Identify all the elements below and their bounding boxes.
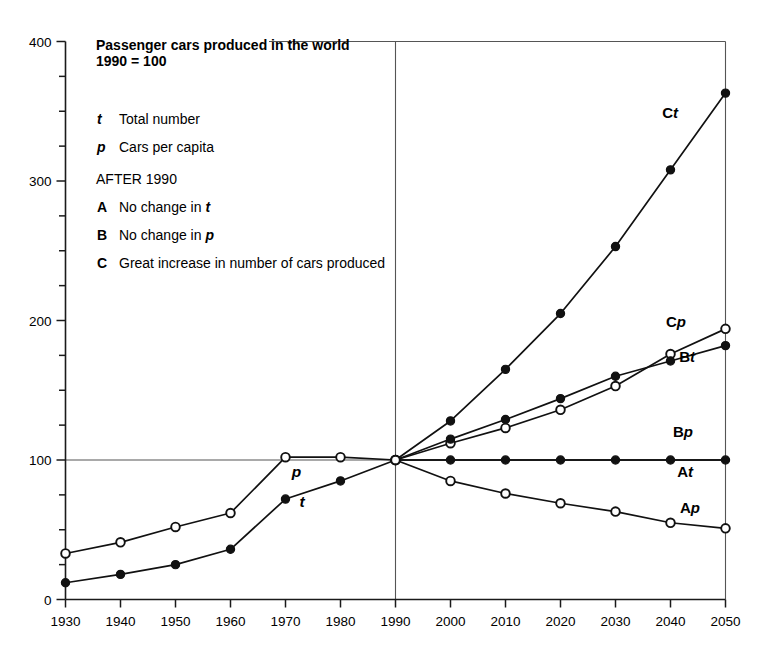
marker-Ct-2000 [446,417,454,425]
inline-annotation-p: p [291,463,301,480]
inline-annotations-group: pt [291,463,306,511]
marker-p-1930 [61,549,70,558]
marker-p-1960 [226,509,235,518]
x-tick-label-1980: 1980 [325,614,355,629]
x-tick-label-1940: 1940 [105,614,135,629]
series-label-Ap: Ap [680,499,700,516]
marker-Cp-2010 [501,424,510,433]
marker-Bp-2030 [611,456,619,464]
marker-Ap-1990 [391,456,400,465]
legend-text-p: Cars per capita [119,139,214,155]
chart-subtitle: 1990 = 100 [96,53,167,69]
legend-key-C: C [97,255,107,271]
marker-Cp-2030 [611,382,620,391]
x-tick-label-1960: 1960 [215,614,245,629]
x-tick-label-1970: 1970 [270,614,300,629]
chart-page: 0100200300400193019401950196019701980199… [0,0,775,649]
marker-t-1940 [116,570,124,578]
marker-Bt-2010 [501,415,509,423]
marker-Bt-2000 [446,435,454,443]
legend-key-A: A [97,199,107,215]
title-group: Passenger cars produced in the world1990… [96,37,350,69]
marker-p-1970 [281,453,290,462]
marker-Bt-2050 [721,342,729,350]
marker-Cp-2020 [556,405,565,414]
marker-Ct-2020 [556,309,564,317]
marker-t-1970 [281,495,289,503]
x-tick-label-2000: 2000 [435,614,465,629]
legend-key-B: B [97,227,107,243]
marker-Ct-2040 [666,166,674,174]
x-tick-label-2020: 2020 [545,614,575,629]
marker-Ap-2000 [446,477,455,486]
x-tick-label-1930: 1930 [50,614,80,629]
marker-Ap-2020 [556,499,565,508]
series-line-t [66,460,396,583]
x-tick-label-1990: 1990 [380,614,410,629]
legend-group: tTotal numberpCars per capitaAFTER 1990A… [96,111,385,271]
chart-title: Passenger cars produced in the world [96,37,350,53]
legend-text-t: Total number [119,111,200,127]
line-chart: 0100200300400193019401950196019701980199… [0,0,775,649]
legend-key-t: t [97,111,103,127]
x-tick-label-2010: 2010 [490,614,520,629]
marker-t-1960 [226,545,234,553]
series-label-Cp: Cp [666,313,686,330]
marker-Ap-2010 [501,489,510,498]
marker-Bp-2050 [721,456,729,464]
x-tick-label-2040: 2040 [655,614,685,629]
x-tick-label-1950: 1950 [160,614,190,629]
series-label-At: At [677,463,694,480]
series-label-Bp: Bp [673,423,693,440]
series-line-p [66,457,396,553]
inline-annotation-t: t [299,493,305,510]
y-tick-label-100: 100 [29,453,52,468]
marker-t-1930 [61,579,69,587]
marker-Bp-2020 [556,456,564,464]
marker-Ct-2010 [501,365,509,373]
legend-text-B: No change in p [119,227,214,243]
marker-p-1980 [336,453,345,462]
series-line-Ap [396,460,726,528]
legend-heading-after-1990: AFTER 1990 [96,171,177,187]
marker-Cp-2050 [721,325,730,334]
marker-Ct-2030 [611,242,619,250]
marker-Ap-2040 [666,518,675,527]
y-tick-label-400: 400 [29,35,52,50]
marker-Ct-2050 [721,89,729,97]
marker-p-1950 [171,523,180,532]
marker-Ap-2050 [721,524,730,533]
legend-text-A: No change in t [119,199,211,215]
x-tick-label-2050: 2050 [710,614,740,629]
series-label-Bt: Bt [679,348,696,365]
x-tick-label-2030: 2030 [600,614,630,629]
marker-Bt-2030 [611,372,619,380]
y-tick-label-300: 300 [29,174,52,189]
series-labels-group: CtCpBtBpAtAp [662,104,700,516]
legend-text-C: Great increase in number of cars produce… [119,255,385,271]
marker-t-1950 [171,561,179,569]
legend-key-p: p [96,139,106,155]
y-tick-label-200: 200 [29,314,52,329]
marker-Bt-2020 [556,395,564,403]
marker-t-1980 [336,477,344,485]
marker-p-1940 [116,538,125,547]
series-label-Ct: Ct [662,104,679,121]
y-tick-label-0: 0 [44,593,52,608]
marker-Bp-2040 [666,456,674,464]
marker-Bt-2040 [666,357,674,365]
marker-Bp-2010 [501,456,509,464]
marker-Ap-2030 [611,507,620,516]
marker-Bp-2000 [446,456,454,464]
